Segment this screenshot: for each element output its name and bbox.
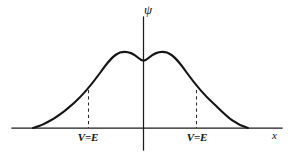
wavefunction-plot [0, 0, 293, 160]
turning-point-right-label: V=E [187, 132, 207, 143]
x-axis-label: x [272, 130, 277, 141]
psi-wavefunction-curve [33, 52, 248, 128]
turning-point-left-label: V=E [78, 132, 98, 143]
y-axis-label-psi: ψ [144, 3, 152, 16]
figure-container: ψ x V=E V=E [0, 0, 293, 160]
